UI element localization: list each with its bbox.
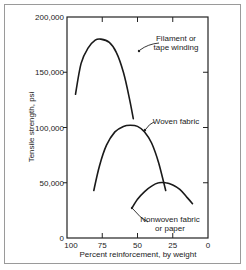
arrow-head-icon <box>138 50 140 52</box>
y-tick-label: 150,000 <box>35 68 64 77</box>
x-tick-label: 50 <box>133 241 142 250</box>
x-tick-label: 75 <box>98 241 107 250</box>
y-axis-title: Tensile strength, psi <box>27 91 36 162</box>
y-tick-label: 100,000 <box>35 124 64 133</box>
nonwoven-curve <box>132 182 193 208</box>
woven-fabric-curve <box>94 125 166 190</box>
filament-curve <box>76 39 134 119</box>
arrow-head-icon <box>131 207 133 209</box>
x-tick-label: 25 <box>168 241 177 250</box>
y-tick-label: 200,000 <box>35 13 64 22</box>
arrow-head-icon <box>144 129 146 131</box>
nonwoven-label: Nonwoven fabricor paper <box>140 215 200 233</box>
x-tick-label: 0 <box>206 241 211 250</box>
tensile-strength-chart: 1007550250050,000100,000150,000200,000 P… <box>0 0 246 270</box>
woven-fabric-label: Woven fabric <box>153 117 200 126</box>
x-axis-title: Percent reinforcement, by weight <box>80 250 198 259</box>
x-tick-label: 100 <box>64 241 78 250</box>
series-annotations: Filament ortape windingWoven fabricNonwo… <box>131 34 200 233</box>
y-tick-label: 0 <box>60 234 65 243</box>
y-tick-label: 50,000 <box>40 179 65 188</box>
filament-label: Filament ortape winding <box>154 34 199 52</box>
